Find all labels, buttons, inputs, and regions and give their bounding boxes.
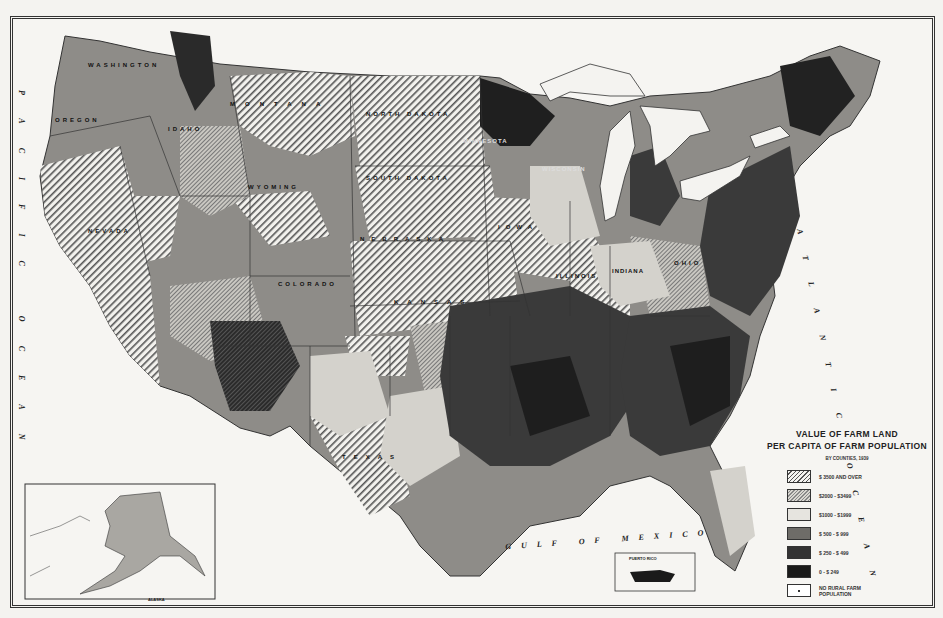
- state-label-nevada: NEVADA: [88, 228, 131, 234]
- state-label-illinois: ILLINOIS: [556, 273, 597, 279]
- pacific-ocean-label: PACIFIC OCEAN: [17, 90, 26, 463]
- swatch-dark-gray-icon: [787, 546, 811, 559]
- legend-subtitle: BY COUNTIES, 1939: [757, 456, 937, 461]
- legend-item-500-999: $ 500 - $ 999: [787, 524, 937, 543]
- swatch-wide-hatch-icon: [787, 470, 811, 483]
- legend-item-2000-3499: $2000 - $3499: [787, 486, 937, 505]
- legend-item-250-499: $ 250 - $ 499: [787, 543, 937, 562]
- state-label-kansas: KANSAS: [394, 299, 473, 305]
- legend-title-line1: VALUE OF FARM LAND: [757, 428, 937, 440]
- legend-title-line2: PER CAPITA OF FARM POPULATION: [757, 440, 937, 452]
- state-label-montana: MONTANA: [230, 101, 330, 107]
- state-label-oregon: OREGON: [55, 117, 100, 123]
- swatch-blank-dot-icon: [787, 584, 811, 597]
- legend-item-no-farm-population: NO RURAL FARM POPULATION: [787, 581, 937, 600]
- state-label-indiana: INDIANA: [612, 268, 644, 274]
- state-label-south-dakota: SOUTH DAKOTA: [366, 175, 450, 181]
- swatch-fine-hatch-icon: [787, 489, 811, 502]
- swatch-black-icon: [787, 565, 811, 578]
- state-label-nebraska: NEBRASKA: [360, 236, 450, 242]
- state-label-washington: WASHINGTON: [88, 62, 159, 68]
- state-label-texas: TEXAS: [342, 454, 402, 460]
- alaska-inset: [25, 484, 215, 599]
- legend-item-3500-plus: $ 3500 AND OVER: [787, 467, 937, 486]
- swatch-medium-gray-icon: [787, 527, 811, 540]
- puerto-rico-label: PUERTO RICO: [629, 556, 657, 561]
- state-label-wyoming: WYOMING: [248, 184, 299, 190]
- map-legend: VALUE OF FARM LAND PER CAPITA OF FARM PO…: [757, 428, 937, 600]
- state-label-minnesota: MINNESOTA: [463, 138, 508, 144]
- state-label-iowa: IOWA: [498, 224, 538, 230]
- swatch-light-stipple-icon: [787, 508, 811, 521]
- state-label-idaho: IDAHO: [168, 126, 202, 132]
- state-label-north-dakota: NORTH DAKOTA: [366, 111, 450, 117]
- legend-item-0-249: 0 - $ 249: [787, 562, 937, 581]
- alaska-label: ALASKA: [148, 597, 165, 602]
- state-label-ohio: OHIO: [674, 260, 701, 266]
- state-label-wisconsin: WISCONSIN: [542, 166, 586, 172]
- page-header: Value of Farm Land Per Capita of Farm Po…: [0, 0, 943, 14]
- state-label-colorado: COLORADO: [278, 281, 337, 287]
- legend-item-1000-1999: $1000 - $1999: [787, 505, 937, 524]
